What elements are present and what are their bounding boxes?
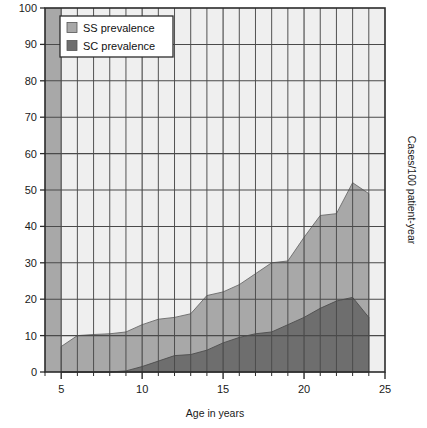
- x-tick-label: 5: [58, 383, 64, 395]
- y-tick-label: 90: [25, 38, 37, 50]
- x-tick-label: 25: [379, 383, 391, 395]
- legend-label-sc: SC prevalence: [83, 40, 155, 52]
- y-tick-label: 80: [25, 75, 37, 87]
- y-tick-label: 40: [25, 220, 37, 232]
- x-tick-label: 20: [298, 383, 310, 395]
- legend-swatch-ss: [67, 23, 77, 33]
- y-tick-label: 100: [19, 2, 37, 14]
- x-tick-label: 10: [136, 383, 148, 395]
- y-tick-label: 70: [25, 111, 37, 123]
- y-axis-title: Cases/100 patient-year: [406, 136, 418, 245]
- area-chart-svg: 0102030405060708090100 510152025 Age in …: [0, 0, 427, 428]
- y-tick-label: 20: [25, 293, 37, 305]
- x-axis-title: Age in years: [186, 407, 244, 419]
- x-tick-label: 15: [217, 383, 229, 395]
- y-tick-label: 0: [31, 366, 37, 378]
- y-tick-label: 60: [25, 148, 37, 160]
- y-tick-label: 30: [25, 257, 37, 269]
- legend-swatch-sc: [67, 41, 77, 51]
- y-tick-label: 50: [25, 184, 37, 196]
- chart-figure: 0102030405060708090100 510152025 Age in …: [0, 0, 427, 428]
- legend: SS prevalence SC prevalence: [60, 16, 173, 57]
- y-tick-label: 10: [25, 330, 37, 342]
- legend-label-ss: SS prevalence: [83, 22, 155, 34]
